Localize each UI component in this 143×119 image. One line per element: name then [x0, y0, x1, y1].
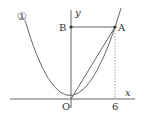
point-a-label: A [117, 22, 126, 33]
origin-label: O [62, 101, 70, 112]
diagram-canvas: ① y x B A O 6 [0, 0, 143, 119]
parabola-diagram: ① y x B A O 6 [0, 0, 143, 119]
curve-label: ① [17, 10, 27, 23]
parabola-curve [25, 5, 122, 96]
x-tick-6-label: 6 [112, 101, 118, 112]
y-axis-label: y [74, 7, 81, 18]
point-a [113, 25, 116, 28]
point-b-label: B [59, 22, 66, 33]
segment-oa [71, 27, 115, 99]
point-b [69, 25, 72, 28]
x-axis-label: x [125, 87, 131, 98]
